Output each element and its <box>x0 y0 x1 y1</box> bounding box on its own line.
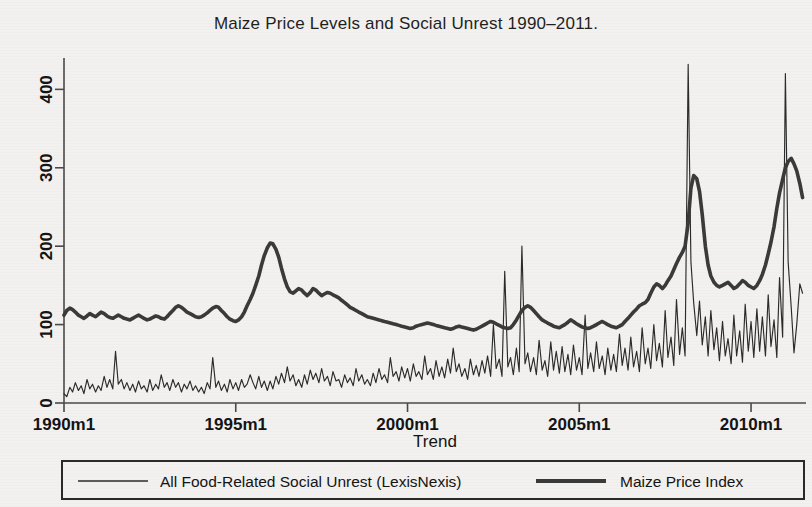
y-tick-label: 200 <box>37 232 56 260</box>
y-tick-label: 300 <box>37 154 56 182</box>
x-tick-label: 2005m1 <box>548 415 610 434</box>
chart-title: Maize Price Levels and Social Unrest 199… <box>0 14 812 34</box>
x-tick-label: 2010m1 <box>720 415 782 434</box>
legend-label-social-unrest: All Food-Related Social Unrest (LexisNex… <box>160 473 462 490</box>
x-tick-label: 1995m1 <box>205 415 267 434</box>
series-line-maize-price <box>64 158 803 330</box>
y-tick-label: 100 <box>37 310 56 338</box>
series-line-social-unrest <box>64 64 803 396</box>
y-axis-ticks: 0100200300400 <box>37 75 64 408</box>
legend-label-maize-price: Maize Price Index <box>620 473 743 490</box>
chart-figure: Maize Price Levels and Social Unrest 199… <box>0 0 812 507</box>
y-tick-label: 0 <box>37 398 56 407</box>
x-axis-title: Trend <box>413 432 457 451</box>
y-tick-label: 400 <box>37 75 56 103</box>
chart-canvas: 0100200300400 1990m11995m12000m12005m120… <box>0 0 812 507</box>
x-axis-ticks: 1990m11995m12000m12005m12010m1 <box>33 403 782 434</box>
x-tick-label: 1990m1 <box>33 415 95 434</box>
